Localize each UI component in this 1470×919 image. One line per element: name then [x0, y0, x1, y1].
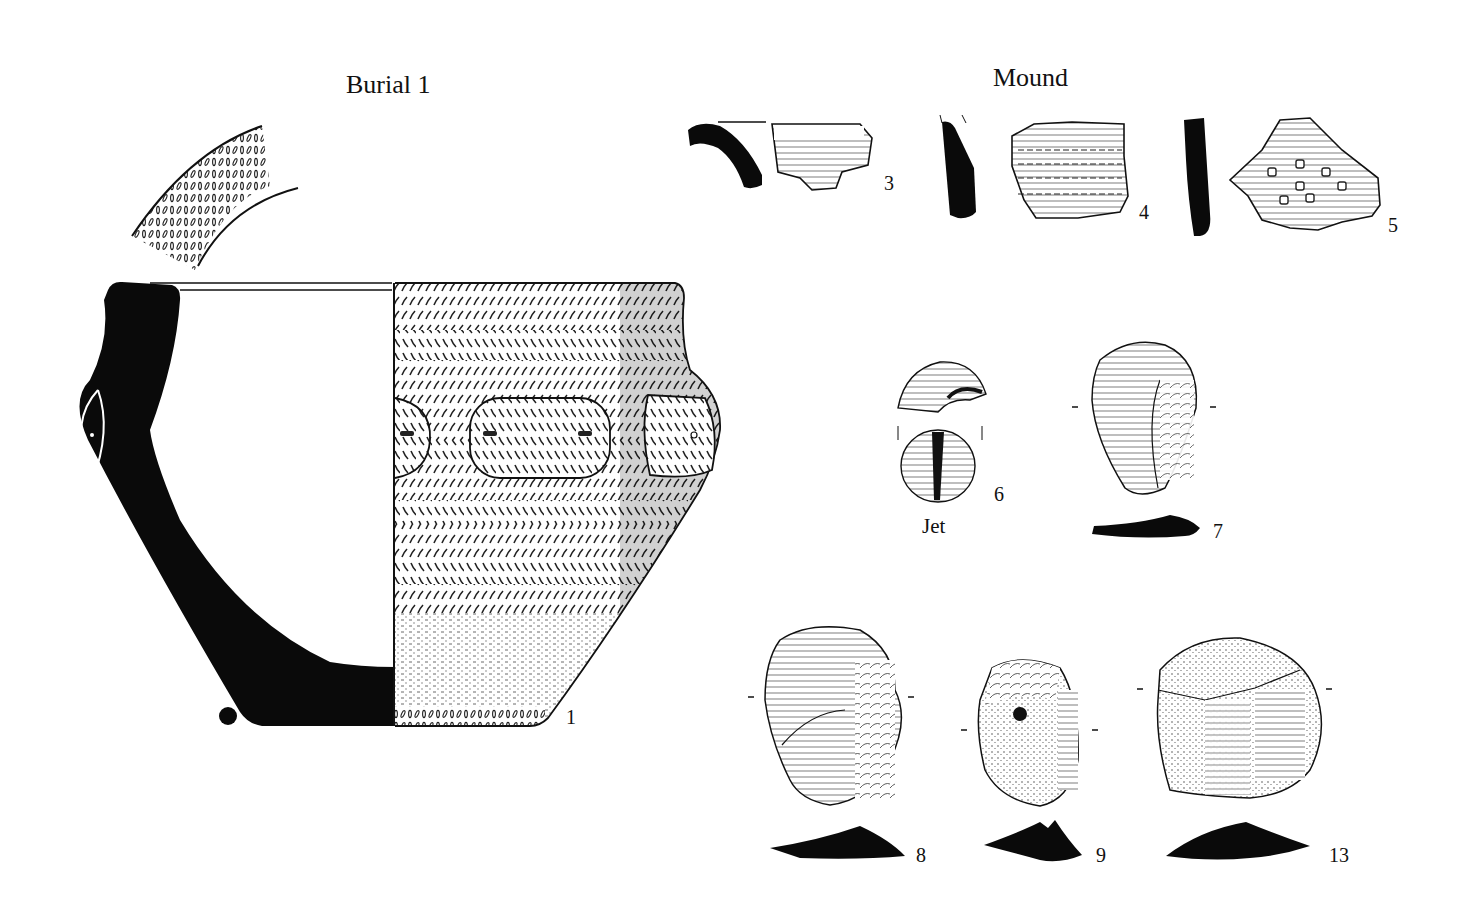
- sherd-5: [1184, 118, 1380, 236]
- pot-1-rim-detail: [132, 126, 298, 270]
- pot-1-elevation: [394, 283, 730, 726]
- section-heading-mound: Mound: [993, 63, 1068, 93]
- jet-object-6: [898, 362, 986, 502]
- artifact-number-3: 3: [884, 172, 894, 195]
- artifact-number-13: 13: [1329, 844, 1349, 867]
- flint-9: [961, 660, 1098, 861]
- sherd-3: [688, 122, 872, 190]
- pot-1-section: [79, 282, 395, 726]
- artifact-number-6: 6: [994, 483, 1004, 506]
- artifact-number-9: 9: [1096, 844, 1106, 867]
- sherd-4: [940, 115, 1128, 218]
- artifact-number-1: 1: [566, 706, 576, 729]
- material-label-jet: Jet: [922, 514, 945, 539]
- illustration-canvas: [0, 0, 1470, 919]
- flint-8: [748, 627, 914, 859]
- artifact-number-8: 8: [916, 844, 926, 867]
- figure-plate: Burial 1 Mound 1 3 4 5 6 Jet 7 8 9 13: [0, 0, 1470, 919]
- section-heading-burial-1: Burial 1: [346, 70, 431, 100]
- flint-13: [1137, 638, 1332, 860]
- artifact-number-7: 7: [1213, 520, 1223, 543]
- artifact-number-4: 4: [1139, 201, 1149, 224]
- artifact-number-5: 5: [1388, 214, 1398, 237]
- flint-7: [1072, 342, 1216, 537]
